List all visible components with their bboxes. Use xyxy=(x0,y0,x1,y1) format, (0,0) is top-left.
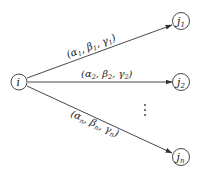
edge-label-j2: (α2, β2, γ2) xyxy=(81,68,133,81)
node-jn: jn xyxy=(173,149,190,166)
vertical-ellipsis xyxy=(144,104,146,116)
edge-label-j1: (α1, β1, γ1) xyxy=(65,32,118,62)
edge-label-jn: (αn, βn, γn) xyxy=(68,108,121,141)
node-j1: j1 xyxy=(173,13,190,30)
node-i-label: i xyxy=(17,76,21,89)
node-j2: j2 xyxy=(173,74,190,91)
edge-i-jn xyxy=(27,86,172,153)
diagram-canvas: (α1, β1, γ1) (α2, β2, γ2) (αn, βn, γn) i… xyxy=(0,0,198,177)
node-i: i xyxy=(11,74,27,90)
